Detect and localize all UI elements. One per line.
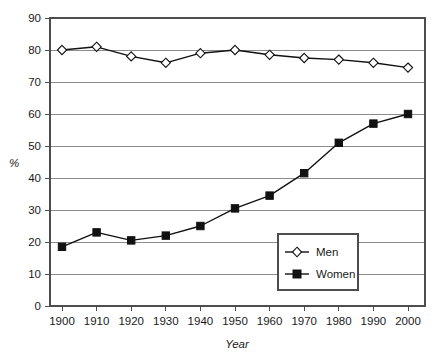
xtick-label-1990: 1990 [361,315,387,327]
x-axis-title: Year [225,338,250,350]
xtick-label-1980: 1980 [326,315,352,327]
xtick-label-1910: 1910 [84,315,110,327]
series-line-women [62,114,408,247]
open-diamond-icon [369,58,378,67]
line-chart: 90 80 70 60 50 40 30 20 10 0 % 190019101… [0,0,437,360]
ytick-label-0: 0 [35,300,41,312]
open-diamond-icon [161,58,170,67]
series-women [58,110,411,250]
y-tick-labels: 90 80 70 60 50 40 30 20 10 0 [28,12,41,312]
xtick-label-1920: 1920 [118,315,144,327]
open-diamond-icon [300,53,309,62]
ytick-label-10: 10 [28,268,41,280]
ytick-label-90: 90 [28,12,41,24]
filled-square-icon [335,139,342,146]
xtick-label-1970: 1970 [291,315,317,327]
legend-label-men: Men [316,246,338,258]
filled-square-icon [301,170,308,177]
ytick-label-30: 30 [28,204,41,216]
open-diamond-icon [127,52,136,61]
xtick-label-1960: 1960 [257,315,283,327]
ytick-label-40: 40 [28,172,41,184]
xtick-label-1940: 1940 [188,315,214,327]
legend-background [278,234,358,290]
xtick-label-1930: 1930 [153,315,179,327]
open-diamond-icon [334,55,343,64]
x-tick-labels: 1900191019201930194019501960197019801990… [49,306,421,327]
filled-square-icon [231,205,238,212]
gridlines [50,50,425,274]
filled-square-icon [162,232,169,239]
xtick-label-1950: 1950 [222,315,248,327]
open-diamond-icon [403,63,412,72]
open-diamond-icon [230,45,239,54]
xtick-label-1900: 1900 [49,315,75,327]
filled-square-icon [58,243,65,250]
filled-square-icon [404,110,411,117]
ytick-label-70: 70 [28,76,41,88]
ytick-label-80: 80 [28,44,41,56]
filled-square-icon [93,229,100,236]
xtick-label-2000: 2000 [395,315,421,327]
open-diamond-icon [57,45,66,54]
legend-label-women: Women [316,268,355,280]
open-diamond-icon [265,50,274,59]
ytick-label-50: 50 [28,140,41,152]
series-men [57,42,412,72]
ytick-label-60: 60 [28,108,41,120]
filled-square-icon [266,192,273,199]
chart-canvas: 90 80 70 60 50 40 30 20 10 0 % 190019101… [0,0,437,360]
y-tickmarks [45,18,50,306]
filled-square-icon [293,270,301,278]
ytick-label-20: 20 [28,236,41,248]
filled-square-icon [128,237,135,244]
filled-square-icon [197,222,204,229]
plot-frame [50,18,425,306]
chart-legend: Men Women [278,234,358,290]
y-axis-title: % [9,157,19,169]
filled-square-icon [370,120,377,127]
